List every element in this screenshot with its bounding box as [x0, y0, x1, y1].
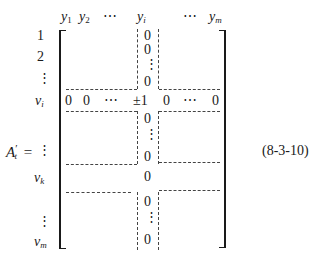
- col-header-y2: y2: [79, 10, 90, 25]
- right-bracket: [219, 30, 226, 248]
- dashed-row-k-top-right: [159, 162, 220, 163]
- row-i-entry: 0: [212, 94, 219, 108]
- dashed-col-left-bot: [137, 192, 138, 250]
- row-label-vk: vk: [34, 171, 44, 186]
- col-header-ellipsis-2: ⋯: [183, 10, 197, 24]
- col-header-ym: ym: [209, 10, 222, 25]
- col-i-entry: ⋮: [145, 210, 158, 223]
- row-i-entry: 0: [83, 94, 90, 108]
- col-i-entry: ⋮: [145, 127, 158, 140]
- col-i-entry: 0: [144, 29, 151, 43]
- row-label-vdots-2: ⋮: [38, 143, 51, 156]
- col-header-ellipsis-1: ⋯: [103, 10, 117, 24]
- col-i-entry: 0: [144, 75, 151, 89]
- dashed-col-left-mid: [137, 111, 138, 164]
- row-i-entry: ⋯: [104, 94, 118, 108]
- equation-number: (8-3-10): [262, 144, 309, 158]
- left-bracket: [59, 30, 66, 249]
- dashed-row-i-top-left: [66, 89, 137, 90]
- dashed-col-right-bot: [158, 192, 159, 250]
- row-label-1: 1: [37, 29, 44, 43]
- col-i-entry: 0: [144, 112, 151, 126]
- dashed-col-right-mid: [158, 111, 159, 164]
- row-i-entry: 0: [163, 94, 170, 108]
- dashed-row-k-bottom-right: [159, 190, 220, 191]
- dashed-row-i-top-right: [159, 89, 220, 90]
- row-label-vi: vi: [35, 94, 44, 109]
- row-label-vm: vm: [34, 235, 47, 250]
- col-header-y1: y1: [61, 10, 72, 25]
- col-i-entry: 0: [144, 170, 151, 184]
- dashed-row-k-top-left: [66, 164, 137, 165]
- dashed-col-right-top: [158, 29, 159, 89]
- col-i-entry: 0: [144, 195, 151, 209]
- dashed-col-left-top: [137, 29, 138, 89]
- dashed-row-i-bottom-right: [159, 111, 220, 112]
- row-label-vdots-1: ⋮: [38, 71, 51, 84]
- col-i-entry-pm1: ±1: [133, 94, 148, 108]
- row-label-vdots-3: ⋮: [38, 214, 51, 227]
- row-label-2: 2: [37, 50, 44, 64]
- col-i-entry: 0: [144, 150, 151, 164]
- dashed-row-i-bottom-left: [66, 111, 137, 112]
- row-i-entry: 0: [65, 94, 72, 108]
- equation-lhs: A′t =: [6, 143, 32, 161]
- row-i-entry: ⋯: [183, 94, 197, 108]
- col-i-entry: ⋮: [145, 57, 158, 70]
- col-header-yi: yi: [137, 10, 146, 25]
- col-i-entry: 0: [144, 43, 151, 57]
- col-i-entry: 0: [144, 233, 151, 247]
- dashed-row-k-bottom-left: [66, 192, 131, 193]
